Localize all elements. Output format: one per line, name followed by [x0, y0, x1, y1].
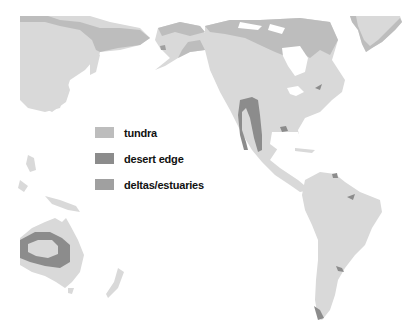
- new-guinea: [45, 196, 80, 212]
- tundra-swatch: [95, 127, 114, 138]
- greenland: [350, 16, 402, 52]
- south-america: [302, 172, 382, 320]
- philippines: [26, 155, 36, 172]
- legend-item-tundra: tundra: [95, 126, 204, 139]
- deltas-estuaries-swatch: [95, 179, 114, 190]
- indonesia: [18, 180, 28, 192]
- tasmania: [68, 288, 74, 294]
- gulf-of-mexico: [270, 132, 302, 150]
- cuba: [295, 148, 315, 153]
- legend-item-deltas-estuaries: deltas/estuaries: [95, 178, 204, 191]
- map-legend: tundra desert edge deltas/estuaries: [95, 126, 204, 204]
- legend-item-desert-edge: desert edge: [95, 152, 204, 165]
- world-map: [0, 0, 419, 336]
- desert-edge-swatch: [95, 153, 114, 164]
- new-zealand: [106, 268, 124, 298]
- legend-label: deltas/estuaries: [124, 179, 204, 191]
- legend-label: desert edge: [124, 153, 184, 165]
- legend-label: tundra: [124, 127, 157, 139]
